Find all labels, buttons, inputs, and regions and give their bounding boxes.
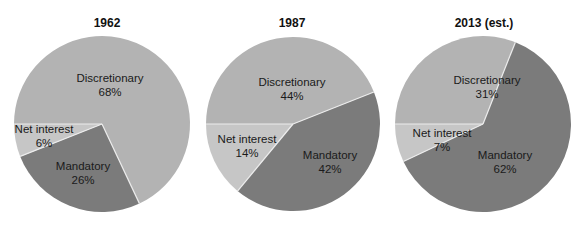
pie-title: 1962 <box>94 16 121 30</box>
pie-chart-figure: 1962 Discretionary68%Mandatory26%Net int… <box>0 0 586 229</box>
slice-label-net-interest: Net interest <box>218 133 278 145</box>
pie-1962: 1962 Discretionary68%Mandatory26%Net int… <box>14 16 190 212</box>
pie-charts-canvas: 1962 Discretionary68%Mandatory26%Net int… <box>0 0 586 229</box>
slice-percent-discretionary: 68% <box>98 86 121 98</box>
slice-percent-mandatory: 26% <box>71 174 94 186</box>
pie-title: 1987 <box>279 16 306 30</box>
slice-label-mandatory: Mandatory <box>56 160 111 172</box>
slice-percent-mandatory: 42% <box>318 163 341 175</box>
slice-percent-net-interest: 14% <box>235 147 258 159</box>
slice-percent-mandatory: 62% <box>493 163 516 175</box>
slice-percent-discretionary: 44% <box>280 90 303 102</box>
slice-label-discretionary: Discretionary <box>258 76 325 88</box>
slice-percent-net-interest: 7% <box>434 141 451 153</box>
slice-label-mandatory: Mandatory <box>303 149 358 161</box>
pie-title: 2013 (est.) <box>455 16 514 30</box>
slice-percent-discretionary: 31% <box>475 88 498 100</box>
slice-label-mandatory: Mandatory <box>478 149 533 161</box>
pie-1987: 1987 Discretionary44%Mandatory42%Net int… <box>206 16 380 211</box>
slice-label-discretionary: Discretionary <box>76 72 143 84</box>
slice-label-net-interest: Net interest <box>413 127 473 139</box>
slice-label-net-interest: Net interest <box>15 123 75 135</box>
slice-label-discretionary: Discretionary <box>453 74 520 86</box>
slice-percent-net-interest: 6% <box>36 137 53 149</box>
pie-2013-est: 2013 (est.) Discretionary31%Mandatory62%… <box>395 16 571 212</box>
